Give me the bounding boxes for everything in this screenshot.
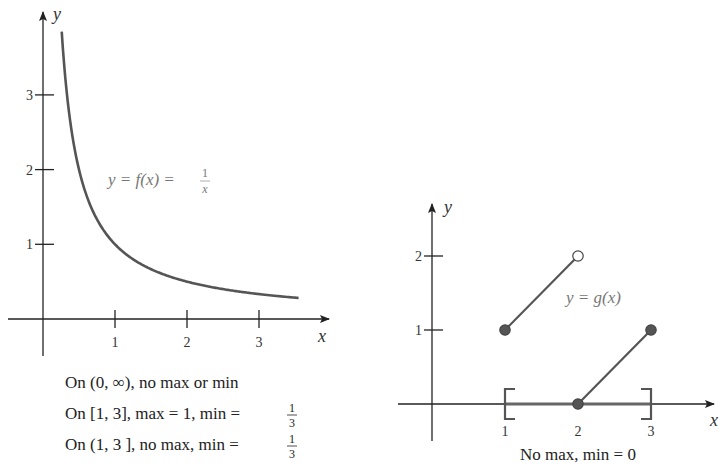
chart-right: 123 12 x y y = g(x) No max, min = 0 — [398, 197, 718, 464]
open-endpoint — [573, 251, 583, 261]
captions-left: On (0, ∞), no max or min On [1, 3], max … — [65, 373, 297, 461]
y-axis-label: y — [442, 197, 452, 217]
caption-2-numerator: 1 — [289, 401, 295, 415]
equation-f-lhs: y = f(x) = — [106, 170, 175, 189]
x-tick-label: 1 — [502, 424, 509, 439]
x-tick-label: 3 — [256, 335, 263, 350]
equation-g: y = g(x) — [564, 288, 621, 307]
caption-line-2: On [1, 3], max = 1, min = — [65, 404, 240, 423]
y-tick-label: 3 — [26, 88, 33, 103]
y-axis-label: y — [51, 4, 61, 24]
caption-line-1: On (0, ∞), no max or min — [65, 373, 239, 392]
caption-3-denominator: 3 — [289, 447, 295, 461]
y-tick-label: 2 — [415, 249, 422, 264]
caption-3-numerator: 1 — [289, 432, 295, 446]
x-tick-label: 2 — [184, 335, 191, 350]
x-tick-label: 3 — [648, 424, 655, 439]
equation-f-numerator: 1 — [202, 166, 208, 180]
equation-f-denominator: x — [201, 182, 208, 196]
chart-left: 123 123 x y y = f(x) = 1 x On (0, ∞), no… — [8, 4, 329, 461]
x-axis-label: x — [317, 326, 326, 346]
figure: 123 123 x y y = f(x) = 1 x On (0, ∞), no… — [0, 0, 719, 472]
closed-endpoint — [500, 325, 510, 335]
equation-f: y = f(x) = 1 x — [106, 166, 210, 196]
segment-2 — [578, 330, 651, 404]
closed-endpoint — [646, 325, 656, 335]
x-tick-label: 1 — [112, 335, 119, 350]
caption-2-denominator: 3 — [289, 416, 295, 430]
caption-line-3: On (1, 3 ], no max, min = — [65, 435, 239, 454]
x-tick-label: 2 — [575, 424, 582, 439]
closed-endpoint — [573, 399, 583, 409]
y-tick-label: 2 — [26, 163, 33, 178]
x-axis-label: x — [709, 410, 718, 430]
y-tick-label: 1 — [415, 323, 422, 338]
curve-f — [62, 32, 299, 298]
caption-right: No max, min = 0 — [520, 445, 636, 464]
y-tick-label: 1 — [26, 237, 33, 252]
